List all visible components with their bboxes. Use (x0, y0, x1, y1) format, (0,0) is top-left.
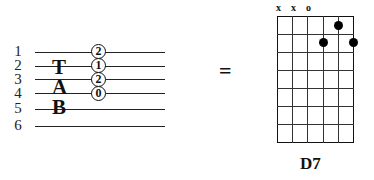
fret-line-5 (277, 106, 354, 107)
finger-dot-string-3-fret-2 (319, 38, 328, 47)
fret-line-3 (277, 70, 354, 71)
fret-line-2 (277, 52, 354, 53)
tab-letter-b: B (52, 97, 66, 118)
fret-marker-string-2: 1 (91, 58, 106, 73)
fret-marker-string-1: 2 (91, 44, 106, 59)
string-mark-1: x (276, 3, 281, 13)
fret-marker-string-3: 2 (91, 72, 106, 87)
tab-line-6 (35, 126, 165, 127)
finger-dot-string-1-fret-2 (349, 38, 358, 47)
string-mark-3: o (306, 3, 311, 13)
fret-line-6 (277, 124, 354, 125)
fret-line-1 (277, 34, 354, 35)
finger-dot-string-2-fret-1 (334, 21, 343, 30)
equals-sign: = (219, 58, 232, 84)
fret-line-4 (277, 88, 354, 89)
chord-name: D7 (300, 154, 321, 174)
string-number-6: 6 (12, 118, 24, 133)
string-mark-2: x (291, 3, 296, 13)
string-number-4: 4 (12, 86, 24, 101)
string-number-5: 5 (12, 101, 24, 116)
fret-marker-string-4: 0 (91, 86, 106, 101)
